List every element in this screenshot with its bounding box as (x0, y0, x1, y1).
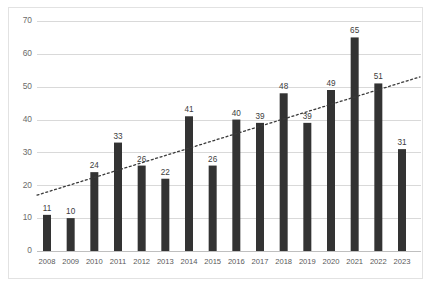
bar[interactable] (114, 143, 122, 251)
bar-value-label: 31 (397, 138, 407, 147)
bar[interactable] (256, 123, 264, 251)
x-tick-label: 2019 (299, 257, 316, 266)
y-tick-label: 0 (27, 245, 32, 255)
bar[interactable] (280, 93, 288, 251)
y-tick-label: 70 (23, 15, 33, 25)
bar[interactable] (138, 166, 146, 251)
bar[interactable] (303, 123, 311, 251)
bar-value-label: 39 (303, 112, 313, 121)
bar-value-label: 48 (279, 82, 289, 91)
x-tick-label: 2016 (228, 257, 245, 266)
bar-value-label: 51 (374, 72, 384, 81)
x-tick-label: 2010 (86, 257, 103, 266)
bar-value-label: 40 (232, 109, 242, 118)
bar[interactable] (398, 149, 406, 251)
x-tick-label: 2020 (323, 257, 340, 266)
bar-value-label: 22 (161, 168, 171, 177)
x-tick-label: 2009 (62, 257, 79, 266)
bar[interactable] (374, 83, 382, 251)
bar[interactable] (161, 179, 169, 251)
y-tick-label: 30 (23, 147, 33, 157)
trendline-group (37, 77, 420, 195)
bar[interactable] (327, 90, 335, 251)
bar[interactable] (67, 218, 75, 251)
x-tick-label: 2021 (346, 257, 363, 266)
x-tick-label: 2017 (252, 257, 269, 266)
y-tick-label: 20 (23, 180, 33, 190)
bar-value-label: 10 (66, 207, 76, 216)
bar[interactable] (43, 215, 51, 251)
bar-value-label: 24 (90, 161, 100, 170)
y-tick-label: 50 (23, 81, 33, 91)
bar-chart-plot: 010203040506070 111024332622412640394839… (9, 8, 424, 280)
y-tick-label: 40 (23, 114, 33, 124)
x-tick-label: 2022 (370, 257, 387, 266)
x-tick-label: 2014 (181, 257, 198, 266)
bar-value-label: 65 (350, 26, 360, 35)
bar-value-label: 39 (255, 112, 265, 121)
x-tick-label: 2008 (39, 257, 56, 266)
x-tick-label: 2015 (204, 257, 221, 266)
y-tick-label: 60 (23, 48, 33, 58)
bar[interactable] (232, 120, 240, 251)
y-tick-label: 10 (23, 212, 33, 222)
x-tick-label: 2023 (394, 257, 411, 266)
x-tick-label: 2013 (157, 257, 174, 266)
x-tick-label: 2018 (275, 257, 292, 266)
x-tick-label: 2011 (110, 257, 126, 266)
bar[interactable] (90, 172, 98, 251)
bar-value-label: 49 (326, 79, 336, 88)
bar-value-label: 11 (43, 204, 52, 213)
trendline (37, 77, 420, 195)
bar[interactable] (185, 116, 193, 251)
x-tick-label: 2012 (133, 257, 150, 266)
bar-value-label: 26 (208, 155, 218, 164)
bar[interactable] (351, 37, 359, 251)
bar-value-label: 41 (184, 105, 194, 114)
x-axis-tick-labels: 2008200920102011201220132014201520162017… (39, 257, 411, 266)
bar[interactable] (209, 166, 217, 251)
y-axis-tick-labels: 010203040506070 (23, 15, 33, 255)
chart-frame: 010203040506070 111024332622412640394839… (8, 7, 423, 279)
bar-value-label: 33 (113, 132, 123, 141)
bar-value-label: 26 (137, 155, 147, 164)
